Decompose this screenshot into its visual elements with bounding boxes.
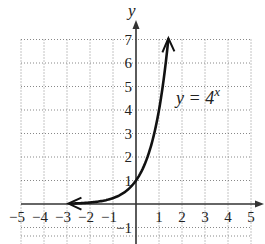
- equation-base: y = 4: [174, 88, 214, 108]
- equation-exponent: x: [213, 84, 220, 99]
- x-tick-label: 3: [201, 209, 209, 225]
- y-axis-arrow-icon: [133, 20, 140, 29]
- y-tick-label: 5: [125, 79, 133, 95]
- y-tick-label: −1: [116, 220, 132, 236]
- y-tick-label: 2: [125, 149, 133, 165]
- x-tick-label: −4: [32, 209, 48, 225]
- x-tick-label: −3: [55, 209, 71, 225]
- y-tick-label: 4: [125, 102, 133, 118]
- y-tick-label: 7: [125, 32, 133, 48]
- x-tick-label: 2: [178, 209, 186, 225]
- x-tick-label: 1: [155, 209, 163, 225]
- y-tick-label: 6: [125, 55, 133, 71]
- x-tick-label: 5: [247, 209, 255, 225]
- x-axis-arrow-icon: [255, 201, 264, 208]
- equation-label: y = 4x: [174, 84, 220, 108]
- y-tick-label: 3: [125, 126, 133, 142]
- x-tick-label: −1: [101, 209, 117, 225]
- x-tick-label: −2: [78, 209, 94, 225]
- x-tick-label: −5: [9, 209, 25, 225]
- x-tick-label: 4: [224, 209, 232, 225]
- y-axis-label: y: [126, 1, 136, 20]
- exponential-graph: −5−4−3−2−112345−11234567 y y = 4x: [0, 0, 265, 244]
